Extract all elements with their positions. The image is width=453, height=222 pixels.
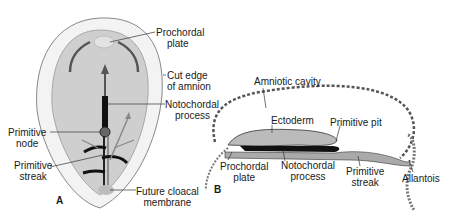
- label-line: membrane: [136, 197, 199, 208]
- label-ectoderm: Ectoderm: [271, 115, 314, 126]
- label-line: Future cloacal: [136, 186, 199, 197]
- label-notochordal-process-a: Notochordal process: [165, 99, 219, 121]
- label-line: node: [8, 138, 46, 149]
- primitive-node: [100, 127, 110, 137]
- label-line: streak: [14, 171, 52, 182]
- label-amniotic-cavity: Amniotic cavity: [254, 76, 321, 87]
- label-line: plate: [220, 172, 268, 183]
- label-line: Cut edge: [167, 70, 211, 81]
- label-notochordal-process-b: Notochordal process: [281, 160, 335, 182]
- panel-letter-b: B: [214, 184, 221, 195]
- label-line: Prochordal: [156, 27, 204, 38]
- label-prochordal-plate-b: Prochordal plate: [220, 161, 268, 183]
- label-line: Primitive: [8, 127, 46, 138]
- label-primitive-pit: Primitive pit: [330, 117, 382, 128]
- label-line: process: [281, 171, 335, 182]
- embryo-diagram: [0, 0, 453, 222]
- label-line: Notochordal: [165, 99, 219, 110]
- label-line: streak: [346, 177, 384, 188]
- label-future-cloacal-membrane: Future cloacal membrane: [136, 186, 199, 208]
- label-prochordal-plate-a: Prochordal plate: [156, 27, 204, 49]
- label-allantois: Allantois: [402, 173, 440, 184]
- label-line: Prochordal: [220, 161, 268, 172]
- notochordal-process-b: [240, 146, 339, 152]
- notochordal-process: [102, 96, 108, 128]
- label-primitive-streak-a: Primitive streak: [14, 160, 52, 182]
- label-primitive-streak-b: Primitive streak: [346, 166, 384, 188]
- label-line: Primitive: [346, 166, 384, 177]
- label-line: Notochordal: [281, 160, 335, 171]
- label-line: of amnion: [167, 81, 211, 92]
- panel-letter-a: A: [56, 195, 63, 206]
- ectoderm: [228, 129, 337, 146]
- label-cut-edge-amnion: Cut edge of amnion: [167, 70, 211, 92]
- label-line: process: [165, 110, 219, 121]
- label-line: Primitive: [14, 160, 52, 171]
- label-line: plate: [156, 38, 204, 49]
- label-primitive-node: Primitive node: [8, 127, 46, 149]
